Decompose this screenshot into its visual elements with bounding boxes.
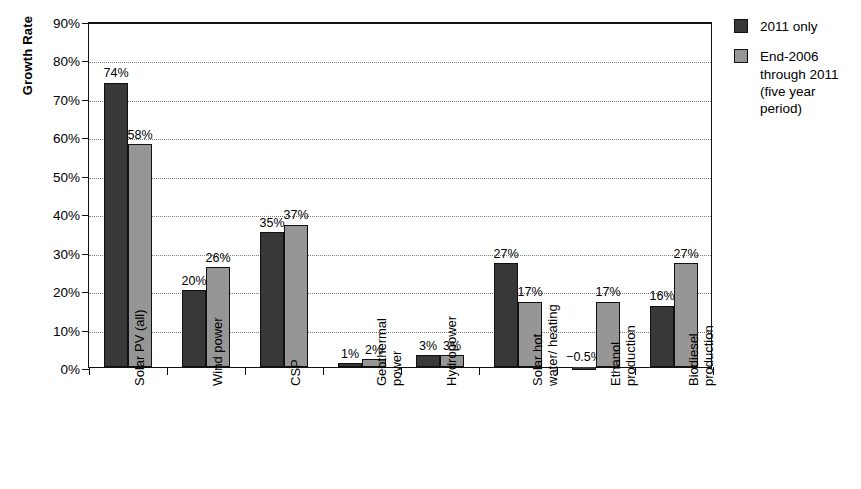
bar-group: 35%37% — [245, 24, 323, 367]
bar-group: 3%3% — [401, 24, 479, 367]
plot-area: 0%10%20%30%40%50%60%70%80%90%74%58%20%26… — [88, 22, 712, 368]
bar-series-1[interactable] — [182, 290, 206, 367]
bar-value-label: 16% — [649, 290, 674, 303]
bar-series-1[interactable] — [104, 83, 128, 367]
chart-canvas: Growth Rate 0%10%20%30%40%50%60%70%80%90… — [0, 0, 861, 489]
bar-group: −0.5%17% — [557, 24, 635, 367]
y-axis-tick-label: 50% — [34, 171, 89, 185]
bar-value-label: 37% — [283, 209, 308, 222]
y-axis-tick-label: 80% — [34, 56, 89, 70]
x-axis-category-label: Solar PV (all) — [133, 309, 148, 386]
legend-item[interactable]: 2011 only — [734, 18, 859, 35]
bar-value-label: 27% — [673, 248, 698, 261]
bar-value-label: 26% — [205, 252, 230, 265]
legend-item-label: End-2006through 2011(five yearperiod) — [760, 48, 859, 117]
x-axis-category-label: Wind power — [211, 317, 226, 386]
y-axis-tick-label: 10% — [34, 325, 89, 339]
y-axis-tick-label: 40% — [34, 209, 89, 223]
bar-value-label: 20% — [181, 275, 206, 288]
legend-swatch-icon — [734, 19, 748, 33]
x-axis-category-label: CSP — [289, 359, 304, 386]
bar-group: 20%26% — [167, 24, 245, 367]
x-axis-category-label: Ethanolproduction — [609, 325, 638, 386]
bar-series-1[interactable] — [650, 306, 674, 368]
bar-value-label: 27% — [493, 248, 518, 261]
y-axis-tick-label: 30% — [34, 248, 89, 262]
bar-group: 16%27% — [635, 24, 713, 367]
bar-value-label: 1% — [341, 348, 359, 361]
bar-series-1[interactable] — [260, 232, 284, 367]
chart-legend: 2011 onlyEnd-2006through 2011(five yearp… — [734, 18, 859, 130]
legend-item-label: 2011 only — [760, 18, 859, 35]
bar-value-label: 17% — [517, 286, 542, 299]
y-axis-tick-label: 70% — [34, 94, 89, 108]
y-axis-tick-label: 60% — [34, 133, 89, 147]
x-axis-category-label: Biodieselproduction — [687, 325, 716, 386]
y-axis-tick-label: 90% — [34, 17, 89, 31]
bar-series-1[interactable] — [416, 355, 440, 367]
bar-group: 74%58% — [89, 24, 167, 367]
y-axis-title: Growth Rate — [20, 0, 35, 121]
x-axis-category-label: Geothermalpower — [375, 318, 404, 386]
bar-value-label: 58% — [127, 129, 152, 142]
legend-item[interactable]: End-2006through 2011(five yearperiod) — [734, 48, 859, 117]
bar-value-label: 3% — [419, 340, 437, 353]
x-axis-category-label: Solar hotwater/ heating — [531, 304, 560, 386]
legend-swatch-icon — [734, 49, 748, 63]
bar-group: 1%2% — [323, 24, 401, 367]
bar-series-1[interactable] — [494, 263, 518, 367]
x-axis-category-label: Hydropower — [445, 316, 460, 386]
y-axis-tick-label: 20% — [34, 286, 89, 300]
bar-series-2[interactable] — [284, 225, 308, 367]
bar-value-label: 35% — [259, 217, 284, 230]
bar-value-label: 17% — [595, 286, 620, 299]
bar-series-1[interactable] — [338, 363, 362, 367]
bar-value-label: 74% — [103, 67, 128, 80]
y-axis-tick-label: 0% — [34, 363, 89, 377]
